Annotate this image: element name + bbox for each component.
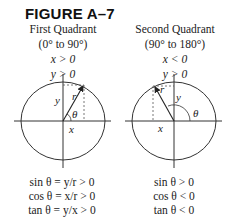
first-quadrant-diagram: r y θ x [14, 74, 111, 168]
theta-arc [168, 105, 190, 121]
equation-sin: sin θ > 0 [122, 175, 226, 189]
label-r: r [72, 90, 77, 102]
equation-tan: tan θ = y/x > 0 [10, 203, 114, 217]
label-x: x [68, 123, 74, 135]
equation-sin: sin θ = y/r > 0 [10, 175, 114, 189]
equation-tan: tan θ < 0 [122, 203, 226, 217]
equation-cos: cos θ < 0 [122, 189, 226, 203]
radius-vector [155, 87, 174, 121]
label-y: y [54, 94, 60, 106]
label-theta: θ [193, 107, 199, 119]
label-x: x [157, 122, 163, 134]
first-quadrant-equations: sin θ = y/r > 0 cos θ = x/r > 0 tan θ = … [10, 175, 114, 217]
equation-cos: cos θ = x/r > 0 [10, 189, 114, 203]
label-theta: θ [72, 108, 78, 120]
label-r: r [160, 83, 165, 95]
second-quadrant-equations: sin θ > 0 cos θ < 0 tan θ < 0 [122, 175, 226, 217]
second-quadrant-diagram: r y θ x [125, 74, 222, 168]
theta-arc [67, 114, 71, 121]
label-y: y [175, 91, 181, 103]
